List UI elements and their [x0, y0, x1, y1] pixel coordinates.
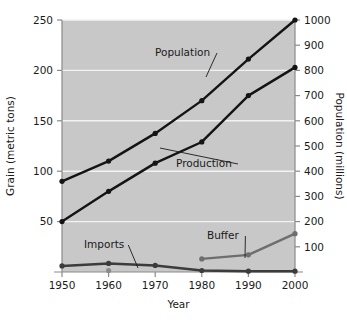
y-tick-label-left: 150 [33, 115, 53, 127]
y-tick-label-right: 100 [304, 241, 324, 253]
y-tick-label-right: 800 [304, 64, 324, 76]
y-tick-label-right: 400 [304, 165, 324, 177]
x-tick-label: 2000 [282, 279, 309, 291]
y-tick-label-right: 600 [304, 115, 324, 127]
data-point-marker [199, 98, 204, 103]
data-point-marker [246, 93, 251, 98]
data-point-marker [199, 256, 204, 261]
y-tick-label-right: 900 [304, 39, 324, 51]
x-tick-label: 1990 [235, 279, 262, 291]
y-axis-title-right: Population (millions) [334, 92, 346, 199]
y-axis-title-left: Grain (metric tons) [4, 96, 16, 196]
y-tick-label-left: 50 [40, 215, 53, 227]
y-tick-label-left: 250 [33, 14, 53, 26]
y-tick-label-right: 700 [304, 89, 324, 101]
data-point-marker [106, 159, 111, 164]
data-point-marker [292, 17, 297, 22]
data-point-marker [199, 139, 204, 144]
data-point-marker [246, 56, 251, 61]
data-point-marker [246, 269, 251, 274]
data-point-marker [59, 263, 64, 268]
data-point-marker [59, 219, 64, 224]
chart-figure: PopulationProductionImportsBuffer 501001… [0, 0, 347, 327]
y-tick-label-right: 200 [304, 215, 324, 227]
data-point-marker [153, 161, 158, 166]
annotation-label-population: Population [155, 46, 210, 58]
data-point-marker [153, 131, 158, 136]
data-point-marker [153, 263, 158, 268]
data-point-marker [106, 189, 111, 194]
annotation-label-production: Production [176, 157, 232, 169]
y-tick-label-left: 100 [33, 165, 53, 177]
x-axis-title: Year [166, 298, 190, 310]
data-point-marker [59, 179, 64, 184]
y-tick-label-left: 200 [33, 64, 53, 76]
data-point-marker [246, 252, 251, 257]
data-point-marker [292, 65, 297, 70]
x-tick-label: 1980 [188, 279, 215, 291]
x-tick-label: 1950 [49, 279, 76, 291]
data-point-marker [292, 231, 297, 236]
y-tick-label-right: 1000 [304, 14, 331, 26]
data-point-marker [106, 268, 111, 273]
data-point-marker [106, 261, 111, 266]
x-tick-label: 1970 [142, 279, 169, 291]
data-point-marker [292, 269, 297, 274]
y-tick-label-right: 300 [304, 190, 324, 202]
y-tick-label-right: 500 [304, 140, 324, 152]
data-point-marker [199, 268, 204, 273]
x-tick-label: 1960 [95, 279, 122, 291]
annotation-label-buffer: Buffer [207, 229, 240, 241]
annotation-label-imports: Imports [84, 238, 124, 250]
grain-population-line-chart: PopulationProductionImportsBuffer 501001… [0, 0, 347, 327]
